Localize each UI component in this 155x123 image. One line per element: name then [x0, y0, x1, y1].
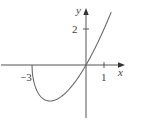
y-tick-label-2: 2: [72, 23, 78, 35]
function-graph: y 2 −3 1 x: [0, 0, 155, 123]
x-tick-label-1: 1: [101, 71, 107, 83]
y-axis-label: y: [75, 4, 81, 16]
x-tick-label-neg3: −3: [20, 71, 32, 83]
y-axis-arrow-icon: [83, 8, 88, 15]
x-axis-label: x: [117, 66, 123, 78]
